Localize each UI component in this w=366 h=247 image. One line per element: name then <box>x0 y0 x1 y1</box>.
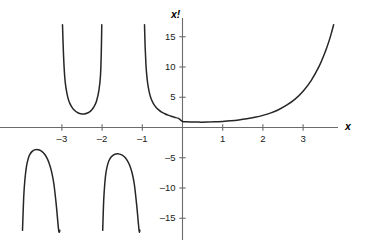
y-tick-label: –15 <box>160 214 176 224</box>
axes-group <box>0 18 338 240</box>
curve-branch <box>23 149 60 232</box>
x-tick-label: 1 <box>220 134 225 144</box>
curve-branch <box>63 25 102 114</box>
x-tick-label: –1 <box>137 134 148 144</box>
y-tick-label: –10 <box>160 183 176 193</box>
x-tick-label: 3 <box>300 134 305 144</box>
chart-figure: –3–2–112315105–5–10–15 x! x <box>0 0 366 247</box>
y-axis-title: x! <box>171 9 180 20</box>
y-tick-label: 5 <box>170 93 175 103</box>
y-tick-label: 15 <box>165 32 176 42</box>
x-tick-label: –3 <box>57 134 68 144</box>
y-tick-label: 10 <box>165 62 176 72</box>
x-tick-label: –2 <box>97 134 108 144</box>
curve-branch <box>103 154 140 232</box>
data-curves-group <box>23 25 334 233</box>
y-tick-label: –5 <box>165 153 176 163</box>
chart-canvas <box>0 0 366 247</box>
x-tick-label: 2 <box>260 134 265 144</box>
x-axis-title: x <box>345 121 351 132</box>
